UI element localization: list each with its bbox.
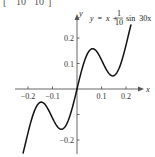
x-axis-arrow-icon (138, 87, 144, 92)
clipped-interval-fragment: [ 10 10 ] (3, 0, 51, 7)
eq-func: sin (126, 14, 135, 23)
eq-frac-den: 10 (115, 18, 123, 27)
x-tick-label: 0.2 (121, 92, 131, 101)
open-bracket: [ (3, 0, 6, 7)
svg-text:sin 30x: sin 30x (126, 14, 151, 23)
y-axis-label: y (78, 8, 83, 18)
equation-label: y = x + 1 10 sin 30x (89, 9, 151, 27)
svg-text:y = x +: y = x + (89, 14, 118, 23)
function-plot: [ 10 10 ] x y −0.2−0.10.10.2 0.20.1−0.2 … (0, 0, 155, 157)
right-denominator: 10 (34, 0, 44, 7)
eq-lhs: y (89, 14, 94, 23)
x-tick-label: 0.1 (97, 92, 107, 101)
y-tick-label: 0.2 (64, 34, 74, 43)
eq-arg: 30x (139, 14, 151, 23)
left-denominator: 10 (16, 0, 26, 7)
x-axis-label: x (145, 84, 150, 94)
close-bracket: ] (48, 0, 51, 7)
y-tick-label: 0.1 (64, 60, 74, 69)
x-tick-label: −0.2 (21, 92, 36, 101)
y-tick-label: −0.2 (59, 136, 74, 145)
x-tick-label: −0.1 (45, 92, 60, 101)
eq-x: x (105, 14, 110, 23)
eq-equals: = (98, 14, 103, 23)
